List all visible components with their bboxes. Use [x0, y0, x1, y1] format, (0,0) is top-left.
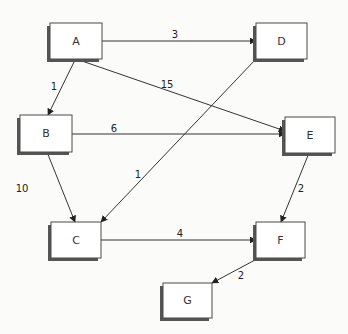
edge-weight-label: 1 [51, 81, 57, 92]
edge-weight-label: 2 [238, 270, 244, 281]
edge-e-to-f [281, 153, 309, 222]
edge-a-to-e [79, 60, 285, 131]
edge-weight-label: 1 [135, 169, 141, 180]
node-e: E [282, 117, 335, 156]
node-a: A [47, 23, 102, 62]
edge-weight-label: 6 [111, 123, 117, 134]
edge-weight-label: 10 [16, 183, 29, 194]
node-label: D [277, 35, 285, 48]
node-label: E [307, 129, 314, 142]
edge-f-to-g [212, 260, 255, 283]
node-g: G [160, 283, 212, 321]
edge-b-to-c [47, 152, 75, 222]
node-label: A [72, 35, 80, 48]
node-label: B [42, 127, 50, 140]
node-label: C [72, 234, 80, 247]
node-label: G [183, 294, 192, 307]
node-d: D [253, 23, 307, 62]
edge-weight-label: 2 [298, 183, 304, 194]
node-b: B [17, 115, 72, 155]
node-f: F [253, 222, 305, 261]
edge-weight-label: 15 [161, 79, 174, 90]
graph-diagram: ABCDEFG 31156110242 [0, 0, 348, 334]
node-c: C [48, 222, 101, 261]
edge-weight-label: 3 [172, 29, 178, 40]
node-label: F [277, 234, 283, 247]
edge-weight-label: 4 [177, 228, 183, 239]
nodes-layer: ABCDEFG [17, 23, 335, 321]
edge-d-to-c [101, 60, 255, 222]
